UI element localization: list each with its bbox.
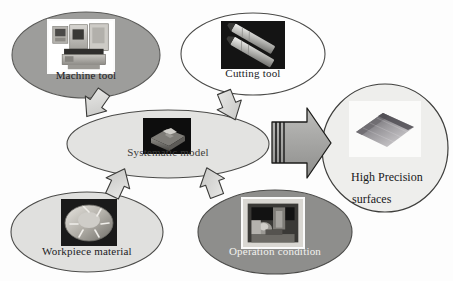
cutting-tool-photo [221, 21, 285, 69]
surface-topography-photo [349, 101, 421, 157]
operation-condition-photo [241, 197, 305, 249]
diagram-canvas: Machine tool Cutting tool Systematic mod… [0, 0, 453, 281]
workpiece-material-photo [61, 199, 117, 246]
systematic-model-photo [143, 118, 191, 154]
arrow-model-to-high-precision-surfaces [272, 108, 331, 178]
big-arrow-body [272, 108, 331, 178]
machine-tool-photo [47, 19, 115, 74]
high-precision-surfaces-label-line2: surfaces [352, 192, 391, 207]
high-precision-surfaces-label-line1: High Precision [351, 170, 423, 185]
